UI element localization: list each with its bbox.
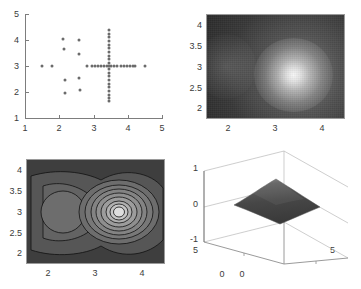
contour-xtick-2: 2 bbox=[45, 269, 50, 278]
contour-ytick-4: 4 bbox=[0, 166, 22, 175]
scatter-xtick-5: 5 bbox=[159, 124, 164, 133]
heatmap-xtick-3: 3 bbox=[272, 124, 277, 133]
scatter-plot-panel: 5 4 3 2 1 1 2 3 4 5 bbox=[0, 0, 180, 145]
scatter-point bbox=[107, 75, 110, 78]
scatter-point bbox=[85, 65, 88, 68]
scatter-point bbox=[107, 86, 110, 89]
scatter-x-axis bbox=[25, 118, 163, 119]
contour-ytick-3: 3 bbox=[0, 208, 22, 217]
scatter-point bbox=[78, 76, 81, 79]
scatter-xtick-4: 4 bbox=[125, 124, 130, 133]
scatter-ytick-2: 2 bbox=[4, 88, 19, 97]
scatter-point bbox=[107, 100, 110, 103]
heatmap-noise-overlay bbox=[207, 15, 344, 118]
scatter-xtick-1: 1 bbox=[22, 124, 27, 133]
scatter-point bbox=[63, 47, 66, 50]
scatter-point bbox=[107, 54, 110, 57]
scatter-point bbox=[77, 39, 80, 42]
scatter-point bbox=[107, 58, 110, 61]
contour-ytick-3-5: 3.5 bbox=[0, 187, 22, 196]
scatter-point bbox=[107, 50, 110, 53]
scatter-point bbox=[107, 36, 110, 39]
scatter-point bbox=[107, 68, 110, 71]
surface-floor bbox=[204, 222, 348, 264]
surface-svg bbox=[180, 145, 361, 289]
heatmap-image bbox=[206, 14, 345, 119]
scatter-point bbox=[107, 40, 110, 43]
heatmap-xtick-4: 4 bbox=[319, 124, 324, 133]
scatter-ytickmark bbox=[26, 66, 29, 67]
scatter-point bbox=[107, 32, 110, 35]
contour-bands bbox=[27, 160, 164, 263]
scatter-ytickmark bbox=[26, 14, 29, 15]
figure-canvas: 5 4 3 2 1 1 2 3 4 5 4 3.5 3 2.5 2 2 3 4 … bbox=[0, 0, 361, 289]
scatter-point bbox=[107, 47, 110, 50]
scatter-point bbox=[107, 71, 110, 74]
scatter-point bbox=[107, 61, 110, 64]
scatter-ytick-3: 3 bbox=[4, 62, 19, 71]
scatter-point bbox=[78, 52, 81, 55]
scatter-ytick-4: 4 bbox=[4, 36, 19, 45]
scatter-xtick-2: 2 bbox=[56, 124, 61, 133]
scatter-xtick-3: 3 bbox=[91, 124, 96, 133]
contour-xtick-3: 3 bbox=[92, 269, 97, 278]
scatter-ytickmark bbox=[26, 118, 29, 119]
scatter-xtickmark bbox=[128, 115, 129, 118]
scatter-point bbox=[64, 91, 67, 94]
scatter-point bbox=[107, 89, 110, 92]
contour-ytick-2-5: 2.5 bbox=[0, 229, 22, 238]
contour-plot-panel: 4 3.5 3 2.5 2 2 3 4 bbox=[0, 145, 181, 289]
scatter-point bbox=[50, 65, 53, 68]
scatter-point bbox=[107, 43, 110, 46]
scatter-xtickmark bbox=[59, 115, 60, 118]
scatter-point bbox=[107, 79, 110, 82]
scatter-point bbox=[107, 82, 110, 85]
contour-svg bbox=[27, 160, 164, 263]
scatter-point bbox=[143, 65, 146, 68]
scatter-point bbox=[107, 29, 110, 32]
heatmap-ytick-4: 4 bbox=[180, 21, 202, 30]
scatter-xtickmark bbox=[162, 115, 163, 118]
scatter-point bbox=[41, 65, 44, 68]
heatmap-ytick-2: 2 bbox=[180, 104, 202, 113]
scatter-xtickmark bbox=[94, 115, 95, 118]
scatter-ytick-5: 5 bbox=[4, 10, 19, 19]
contour-ytick-2: 2 bbox=[0, 249, 22, 258]
scatter-point bbox=[134, 65, 137, 68]
scatter-ytick-1: 1 bbox=[4, 114, 19, 123]
scatter-point bbox=[64, 79, 67, 82]
scatter-point bbox=[78, 88, 81, 91]
scatter-ytickmark bbox=[26, 40, 29, 41]
heatmap-xtick-2: 2 bbox=[225, 124, 230, 133]
scatter-point bbox=[107, 93, 110, 96]
scatter-point-layer bbox=[25, 14, 162, 118]
surface-plot-panel: 1 0 -1 5 0 0 5 bbox=[180, 145, 361, 289]
heatmap-panel: 4 3.5 3 2.5 2 2 3 4 bbox=[180, 0, 361, 145]
scatter-ytickmark bbox=[26, 92, 29, 93]
contour-xtick-4: 4 bbox=[139, 269, 144, 278]
heatmap-ytick-3-5: 3.5 bbox=[180, 42, 202, 51]
scatter-point bbox=[62, 38, 65, 41]
heatmap-ytick-3: 3 bbox=[180, 63, 202, 72]
heatmap-ytick-2-5: 2.5 bbox=[180, 84, 202, 93]
contour-image bbox=[26, 159, 165, 264]
